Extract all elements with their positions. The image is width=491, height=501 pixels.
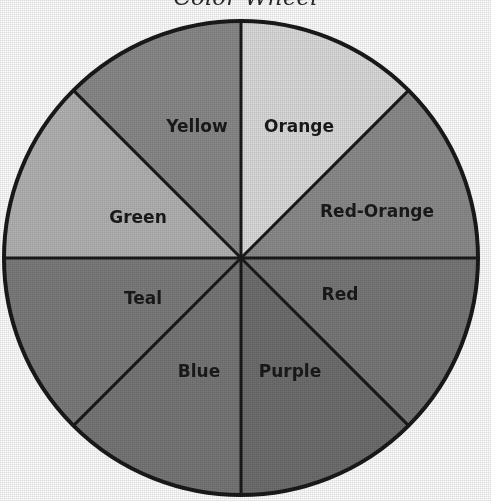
pie-divider-layer <box>4 21 478 495</box>
pie-label-red: Red <box>322 284 359 304</box>
pie-label-blue: Blue <box>178 361 220 381</box>
pie-label-purple: Purple <box>259 361 321 381</box>
pie-label-orange: Orange <box>264 116 334 136</box>
pie-chart-color-wheel: YellowOrangeRed-OrangeRedPurpleBlueTealG… <box>0 0 491 501</box>
pie-label-teal: Teal <box>124 288 162 308</box>
pie-label-red-orange: Red-Orange <box>320 201 434 221</box>
pie-label-yellow: Yellow <box>165 116 228 136</box>
color-wheel-page: Color Wheel YellowOrangeRed-OrangeRedPur… <box>0 0 491 501</box>
pie-chart-svg: YellowOrangeRed-OrangeRedPurpleBlueTealG… <box>0 0 491 501</box>
pie-label-green: Green <box>109 207 167 227</box>
